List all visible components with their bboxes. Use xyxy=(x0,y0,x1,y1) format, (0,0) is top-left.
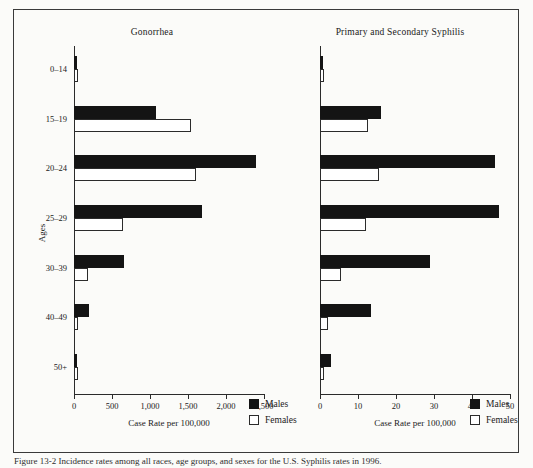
x-tick-label: 1,000 xyxy=(140,401,159,411)
bar-female xyxy=(320,317,328,330)
bar-male xyxy=(74,155,256,168)
legend-syphilis: Males Females xyxy=(470,399,518,431)
bar-male xyxy=(74,205,202,218)
bar-female xyxy=(320,268,341,281)
x-tick-label: 2,000 xyxy=(216,401,235,411)
bar-male xyxy=(74,255,124,268)
legend-label-males: Males xyxy=(265,399,288,409)
bar-male xyxy=(74,354,77,367)
bar-male xyxy=(74,106,156,119)
bar-male xyxy=(320,255,430,268)
category-label: 40–49 xyxy=(46,312,67,322)
x-axis-line xyxy=(320,394,511,395)
x-tick xyxy=(150,394,151,399)
bar-male xyxy=(320,205,499,218)
category-label: 25–29 xyxy=(46,213,67,223)
figure-plate: Gonorrhea Ages 05001,0001,5002,0002,500 … xyxy=(0,0,533,468)
category-label: 15–19 xyxy=(46,114,67,124)
x-tick-label: 20 xyxy=(392,401,401,411)
x-tick xyxy=(434,394,435,399)
bar-female xyxy=(74,69,78,82)
bar-female xyxy=(320,119,368,132)
bar-female xyxy=(320,367,324,380)
x-tick-label: 1,500 xyxy=(178,401,197,411)
bar-female xyxy=(74,317,78,330)
panel-title-syphilis: Primary and Secondary Syphilis xyxy=(286,27,514,37)
bar-male xyxy=(320,56,323,69)
bar-female xyxy=(74,119,191,132)
figure-border: Gonorrhea Ages 05001,0001,5002,0002,500 … xyxy=(13,9,519,453)
x-tick-label: 500 xyxy=(106,401,119,411)
legend-label-females: Females xyxy=(486,415,518,425)
legend-swatch-males-icon xyxy=(249,399,259,409)
bar-female xyxy=(320,168,379,181)
legend-label-males: Males xyxy=(486,399,509,409)
x-tick xyxy=(320,394,321,399)
legend-row-females: Females xyxy=(470,415,518,425)
x-tick-label: 30 xyxy=(430,401,439,411)
bar-male xyxy=(74,56,77,69)
category-label: 30–39 xyxy=(46,263,67,273)
plot-area-gonorrhea: 05001,0001,5002,0002,500 0–1415–1920–242… xyxy=(74,46,264,394)
category-label: 50+ xyxy=(54,362,67,372)
x-axis-title-gonorrhea: Case Rate per 100,000 xyxy=(74,418,264,428)
legend-swatch-males-icon xyxy=(470,399,480,409)
bar-male xyxy=(320,155,495,168)
bar-male xyxy=(320,304,371,317)
bar-male xyxy=(74,304,89,317)
x-tick xyxy=(396,394,397,399)
x-axis-line xyxy=(74,394,265,395)
legend-swatch-females-icon xyxy=(249,415,259,425)
legend-row-males: Males xyxy=(470,399,518,409)
bar-male xyxy=(320,354,331,367)
legend-swatch-females-icon xyxy=(470,415,480,425)
x-tick xyxy=(358,394,359,399)
category-label: 20–24 xyxy=(46,163,67,173)
x-tick xyxy=(226,394,227,399)
figure-caption: Figure 13-2 Incidence rates among all ra… xyxy=(14,456,519,466)
bar-female xyxy=(74,268,88,281)
x-tick-label: 0 xyxy=(72,401,76,411)
x-tick xyxy=(112,394,113,399)
x-tick-label: 0 xyxy=(318,401,322,411)
panel-title-gonorrhea: Gonorrhea xyxy=(32,27,272,37)
bar-male xyxy=(320,106,381,119)
x-tick-label: 10 xyxy=(354,401,363,411)
bar-female xyxy=(74,168,196,181)
plot-area-syphilis: 01020304050 Case Rate per 100,000 Males … xyxy=(320,46,510,394)
panel-gonorrhea: Gonorrhea Ages 05001,0001,5002,0002,500 … xyxy=(14,10,286,454)
bar-female xyxy=(74,218,123,231)
bar-female xyxy=(74,367,78,380)
x-tick xyxy=(74,394,75,399)
y-axis-title: Ages xyxy=(37,224,47,243)
category-label: 0–14 xyxy=(50,64,67,74)
x-tick xyxy=(188,394,189,399)
bar-female xyxy=(320,218,366,231)
bar-female xyxy=(320,69,324,82)
panel-syphilis: Primary and Secondary Syphilis 010203040… xyxy=(286,10,520,454)
